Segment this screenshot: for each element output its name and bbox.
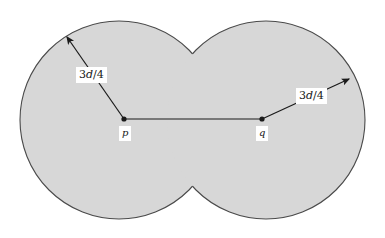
- disk-union-shape: [20, 21, 365, 219]
- right-radius-label-var: d: [306, 89, 313, 102]
- left-radius-label-suffix: /4: [93, 68, 104, 81]
- left-radius-label-prefix: 3: [79, 68, 86, 81]
- left-radius-label-var: d: [86, 68, 93, 81]
- left-radius-label: 3d/4: [76, 67, 107, 83]
- right-radius-label: 3d/4: [296, 88, 327, 104]
- point-p-label: p: [119, 126, 131, 141]
- diagram-canvas: [0, 0, 385, 238]
- right-disk-fill: [167, 21, 365, 219]
- point-q-dot: [259, 116, 264, 121]
- right-radius-label-prefix: 3: [299, 89, 306, 102]
- right-radius-label-suffix: /4: [313, 89, 324, 102]
- point-p-dot: [121, 116, 126, 121]
- point-q-label: q: [256, 126, 268, 141]
- geometry-figure: 3d/4 3d/4 p q: [0, 0, 385, 238]
